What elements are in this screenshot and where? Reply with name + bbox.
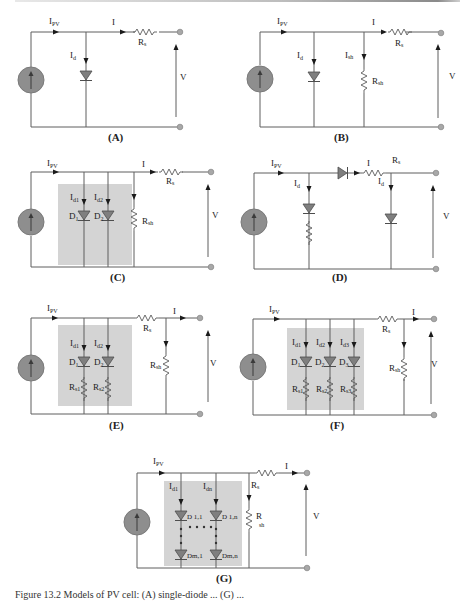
svg-text:sh: sh — [259, 522, 264, 528]
figure-caption: Figure 13.2 Models of PV cell: (A) singl… — [15, 589, 244, 600]
svg-text:V: V — [443, 211, 450, 221]
svg-text:V: V — [313, 511, 320, 521]
svg-text:D 1,n: D 1,n — [222, 513, 238, 521]
svg-text:I: I — [372, 17, 375, 27]
label-v: V — [180, 72, 187, 82]
svg-text:D 1,1: D 1,1 — [187, 513, 203, 521]
panel-a: IPV I Id Rs V (A) — [18, 16, 187, 144]
label-ipv: IPV — [49, 16, 60, 27]
svg-text:Rsh: Rsh — [389, 363, 400, 373]
svg-text:I: I — [367, 158, 370, 168]
svg-text:IPV: IPV — [269, 304, 280, 315]
svg-text:IPV: IPV — [153, 456, 164, 467]
svg-text:V: V — [212, 210, 219, 220]
panel-c: IPV I Id1 Id2 D1 D2 Rs Rsh V (C) — [18, 158, 219, 284]
svg-text:Rsh: Rsh — [150, 360, 161, 370]
svg-text:Rs: Rs — [382, 324, 391, 334]
panel-g: IPV I Id1 Idn D 1,1 D 1,n Dm,1 Dm,n Rs R… — [124, 456, 320, 585]
svg-text:V: V — [449, 71, 456, 81]
svg-text:IPV: IPV — [277, 16, 288, 27]
panel-caption-e: (E) — [109, 419, 124, 432]
panel-caption-g: (G) — [216, 572, 232, 585]
panel-d: IPV I Id Id Rs V (D) — [241, 155, 450, 284]
pv-models-figure: IPV I Id Rs V (A) IPV I Id Ish Rs Rsh V … — [0, 0, 465, 601]
svg-text:Ish: Ish — [345, 50, 353, 60]
svg-text:I: I — [285, 461, 288, 471]
label-i: I — [112, 17, 115, 27]
svg-text:I: I — [142, 159, 145, 169]
svg-text:V: V — [431, 359, 438, 369]
svg-text:Id: Id — [378, 176, 384, 187]
diode-icon — [80, 71, 92, 81]
panel-b: IPV I Id Ish Rs Rsh V (B) — [247, 16, 456, 144]
svg-text:IPV: IPV — [47, 303, 58, 314]
svg-text:Rs: Rs — [166, 176, 175, 186]
svg-text:Rs: Rs — [395, 38, 404, 48]
svg-text:I: I — [412, 307, 415, 317]
label-rs: Rs — [138, 37, 147, 47]
svg-text:Rs: Rs — [392, 155, 401, 165]
svg-text:R: R — [256, 511, 262, 521]
panel-caption-b: (B) — [334, 131, 349, 144]
svg-text:Rsh: Rsh — [142, 216, 153, 226]
panel-caption-c: (C) — [110, 271, 126, 284]
svg-text:IPV: IPV — [47, 158, 58, 169]
svg-text:Id: Id — [297, 50, 303, 61]
svg-text:I: I — [173, 306, 176, 316]
svg-text:Rsh: Rsh — [372, 76, 383, 86]
label-id: Id — [70, 50, 76, 61]
panel-caption-d: (D) — [332, 271, 348, 284]
panel-caption-f: (F) — [330, 419, 344, 432]
panel-e: IPV I Id1 Id2 D1 D2 Rs1 Rs2 Rs Rsh V (E) — [18, 303, 217, 432]
current-source-icon — [18, 67, 44, 93]
svg-text:Rs: Rs — [251, 480, 260, 490]
panel-caption-a: (A) — [108, 131, 124, 144]
svg-text:Dm,1: Dm,1 — [187, 552, 203, 560]
svg-text:V: V — [210, 358, 217, 368]
panel-f: IPV I Id1 Id2 Id3 D1 D2 D3 Rs1 Rs2 Rs3 R… — [240, 304, 438, 432]
svg-text:Rs: Rs — [143, 323, 152, 333]
svg-text:IPV: IPV — [271, 158, 282, 169]
svg-text:Id: Id — [294, 178, 300, 189]
svg-text:Dm,n: Dm,n — [222, 552, 238, 560]
